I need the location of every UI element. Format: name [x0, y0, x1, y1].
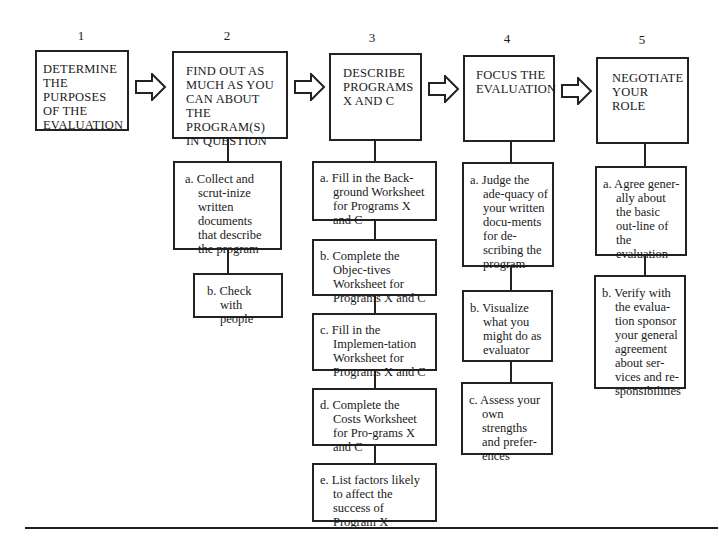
substep-text: a. Judge the ade-quacy of your written d…: [470, 173, 548, 271]
substep-text: b. Check with people: [207, 284, 275, 326]
step-number-1: 1: [71, 28, 91, 44]
connector-line: [510, 141, 512, 163]
substep-box-4c: c. Assess your own strengths and prefer-…: [461, 382, 553, 455]
substep-box-3d: d. Complete the Costs Worksheet for Pro-…: [312, 388, 437, 446]
step-title: FIND OUT AS MUCH AS YOU CAN ABOUT THE PR…: [186, 64, 274, 148]
substep-box-5a: a. Agree gener-ally about the basic out-…: [595, 166, 687, 256]
substep-box-4b: b. Visualize what you might do as evalua…: [462, 290, 553, 362]
substep-box-5b: b. Verify with the evalua-tion sponsor y…: [594, 275, 686, 389]
step-number-4: 4: [497, 31, 517, 47]
connector-line: [644, 143, 646, 167]
connector-line: [374, 445, 376, 464]
connector-line: [374, 370, 376, 389]
substep-text: a. Agree gener-ally about the basic out-…: [603, 177, 681, 261]
substep-text: e. List factors likely to affect the suc…: [320, 473, 429, 529]
step-box-describe-programs: DESCRIBE PROGRAMS X AND C: [329, 53, 422, 141]
substep-box-3b: b. Complete the Objec-tives Worksheet fo…: [312, 239, 437, 296]
substep-box-3e: e. List factors likely to affect the suc…: [312, 463, 437, 522]
step-title: NEGOTIATE YOUR ROLE: [612, 71, 683, 113]
step-box-find-out-about-program: FIND OUT AS MUCH AS YOU CAN ABOUT THE PR…: [172, 51, 288, 139]
substep-text: a. Collect and scrut-inize written docum…: [185, 172, 274, 256]
arrow-right-icon: [428, 75, 460, 103]
step-number-5: 5: [632, 32, 652, 48]
arrow-right-icon: [561, 77, 593, 105]
step-title: DETERMINE THE PURPOSES OF THE EVALUATION: [43, 62, 123, 132]
substep-box-4a: a. Judge the ade-quacy of your written d…: [462, 162, 554, 267]
step-title: FOCUS THE EVALUATION: [476, 68, 556, 96]
substep-box-2b: b. Check with people: [193, 273, 283, 318]
connector-line: [227, 138, 229, 162]
substep-text: b. Verify with the evalua-tion sponsor y…: [602, 286, 680, 398]
connector-line: [374, 140, 376, 162]
substep-box-3a: a. Fill in the Back-ground Worksheet for…: [312, 161, 437, 221]
connector-line: [644, 255, 646, 276]
arrow-right-icon: [135, 73, 167, 101]
step-number-2: 2: [217, 28, 237, 44]
step-title: DESCRIBE PROGRAMS X AND C: [343, 66, 413, 108]
substep-text: c. Assess your own strengths and prefer-…: [469, 393, 547, 463]
bottom-divider: [25, 527, 718, 529]
connector-line: [374, 295, 376, 314]
connector-line: [227, 249, 229, 274]
substep-box-2a: a. Collect and scrut-inize written docum…: [173, 161, 282, 250]
step-number-3: 3: [362, 30, 382, 46]
step-box-negotiate-role: NEGOTIATE YOUR ROLE: [596, 57, 689, 144]
connector-line: [374, 220, 376, 240]
step-box-focus-evaluation: FOCUS THE EVALUATION: [463, 55, 555, 142]
connector-line: [510, 266, 512, 291]
connector-line: [510, 361, 512, 383]
step-box-determine-purposes: DETERMINE THE PURPOSES OF THE EVALUATION: [35, 50, 129, 131]
substep-box-3c: c. Fill in the Implemen-tation Worksheet…: [312, 313, 437, 371]
substep-text: a. Fill in the Back-ground Worksheet for…: [320, 171, 429, 227]
substep-text: b. Visualize what you might do as evalua…: [470, 301, 547, 357]
arrow-right-icon: [294, 73, 326, 101]
